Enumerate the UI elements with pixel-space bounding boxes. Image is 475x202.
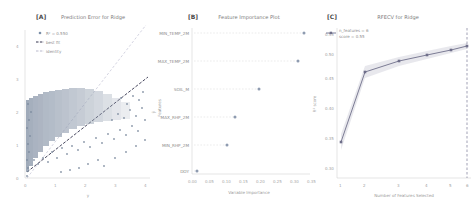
panel-a-xlabel: y [87, 193, 90, 198]
panel-a-xtick: 2 [84, 183, 87, 188]
panel-c-xtick: 2 [363, 183, 366, 188]
panel-b-feature-importance: [B] Feature Importance Plot MIN_TEMP_2M … [152, 0, 312, 202]
panel-a-ytick: 2 [16, 110, 19, 115]
panel-c-ytick: 0.45 [325, 76, 334, 81]
panel-c-ytick: 0.35 [325, 136, 334, 141]
panel-a-letter: [A] [36, 13, 46, 20]
panel-c-ytick: 0.30 [325, 166, 334, 171]
panel-b-xlabel: Variable Importance [228, 190, 270, 195]
panel-a-xtick: 1 [54, 183, 57, 188]
panel-b-feature-label: SOIL_M [174, 87, 190, 92]
legend-label-r2: R² = 0.550 [46, 31, 68, 36]
panel-a-scatter [26, 88, 146, 177]
panel-c-rfecv: [C] RFECV for Ridge 0.30 0.35 [305, 0, 475, 202]
figure-root: [A] Prediction Error for Ridge 0 1 2 3 4… [0, 0, 475, 202]
panel-a-xtick: 0 [24, 183, 27, 188]
panel-b-xtick: 0.15 [239, 179, 248, 184]
panel-b-xtick: 0.00 [188, 179, 197, 184]
legend-marker-r2-icon [39, 32, 42, 35]
panel-c-confidence-band [341, 43, 467, 150]
panel-b-marker [226, 144, 229, 147]
panel-a-ytick: 4 [16, 44, 19, 49]
panel-b-feature-label: MIN_RHP_2M [162, 143, 189, 148]
panel-b-marker [196, 170, 199, 173]
panel-b-row: SOIL_M [174, 87, 261, 92]
panel-b-row: MIN_RHP_2M [162, 143, 229, 148]
panel-a-xtick: 4 [144, 183, 147, 188]
panel-c-title: RFECV for Ridge [377, 14, 419, 21]
legend-label-nfeatures: n_features = 6 [339, 28, 369, 33]
panel-a-ytick: 3 [16, 77, 19, 82]
panel-b-marker [258, 88, 261, 91]
panel-b-row: MAX_RHP_2M [161, 115, 237, 120]
legend-label-score: score = 0.55 [339, 34, 365, 39]
panel-b-row: MAX_TEMP_2M [158, 59, 300, 64]
panel-c-letter: [C] [327, 13, 337, 20]
panel-b-row: MIN_TEMP_2M [159, 31, 305, 36]
panel-b-rows: MIN_TEMP_2M MAX_TEMP_2M SOIL_M MAX_RHP_2… [158, 31, 306, 174]
panel-b-letter: [B] [188, 13, 198, 20]
panel-b-feature-label: MAX_TEMP_2M [158, 59, 190, 64]
panel-c-xtick: 1 [339, 183, 342, 188]
panel-b-feature-label: DOY [180, 169, 189, 174]
panel-b-ylabel: Features [157, 99, 162, 117]
panel-a-legend: R² = 0.550 best fit identity [36, 31, 68, 54]
panel-a-ytick: 1 [16, 143, 19, 148]
panel-c-x-ticks: 1 2 3 4 5 6 [339, 183, 469, 188]
legend-label-bestfit: best fit [46, 40, 60, 45]
panel-b-xtick: 0.05 [205, 179, 214, 184]
panel-b-xtick: 0.10 [222, 179, 231, 184]
panel-b-feature-label: MIN_TEMP_2M [159, 31, 189, 36]
panel-b-xtick: 0.25 [273, 179, 282, 184]
panel-c-xtick: 5 [449, 183, 452, 188]
panel-b-xtick: 0.20 [256, 179, 265, 184]
panel-b-row: DOY [180, 169, 198, 174]
panel-c-xlabel: Number of Features Selected [374, 193, 434, 198]
panel-a-prediction-error: [A] Prediction Error for Ridge 0 1 2 3 4… [0, 0, 158, 202]
panel-a-ytick: 0 [16, 176, 19, 181]
panel-b-feature-label: MAX_RHP_2M [161, 115, 190, 120]
panel-a-xtick: 3 [114, 183, 117, 188]
panel-c-ytick: 0.40 [325, 106, 334, 111]
panel-a-x-ticks: 0 1 2 3 4 [24, 183, 147, 188]
panel-a-title: Prediction Error for Ridge [61, 14, 125, 21]
panel-c-xtick: 6 [466, 183, 469, 188]
panel-b-title: Feature Importance Plot [218, 14, 279, 21]
panel-c-ytick: 0.50 [325, 52, 334, 57]
panel-b-marker [234, 116, 237, 119]
legend-marker-square-icon [330, 32, 332, 34]
legend-label-identity: identity [46, 49, 62, 54]
panel-c-y-ticks: 0.30 0.35 0.40 0.45 0.50 0.55 [325, 32, 334, 171]
panel-c-ylabel: R² score [312, 95, 317, 112]
panel-b-marker [297, 60, 300, 63]
panel-c-xtick: 4 [425, 183, 428, 188]
panel-b-xtick: 0.30 [290, 179, 299, 184]
panel-c-xtick: 3 [397, 183, 400, 188]
panel-b-x-ticks: 0.00 0.05 0.10 0.15 0.20 0.25 0.30 0.35 [188, 179, 316, 184]
panel-a-y-ticks: 0 1 2 3 4 [16, 44, 19, 181]
